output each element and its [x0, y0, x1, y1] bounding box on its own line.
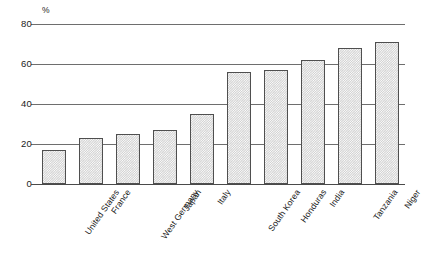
- bar: [42, 150, 66, 184]
- bar: [301, 60, 325, 184]
- y-axis-tick-label: 80: [6, 19, 32, 29]
- x-axis-labels: United StatesFranceWest GermanyJapanItal…: [36, 188, 405, 261]
- x-axis-category-label: Niger: [403, 188, 422, 210]
- y-axis-tick-label: 0: [6, 179, 32, 189]
- y-axis-tick-label: 20: [6, 139, 32, 149]
- x-axis-category-label: Tanzania: [372, 188, 400, 222]
- y-axis-tick-label: 40: [6, 99, 32, 109]
- bar: [190, 114, 214, 184]
- x-axis-category-label: South Korea: [267, 188, 302, 233]
- bar: [338, 48, 362, 184]
- bar-series: [36, 24, 405, 184]
- bar: [375, 42, 399, 184]
- y-axis-unit-label: %: [42, 6, 50, 15]
- x-axis-category-label: Italy: [216, 188, 233, 206]
- x-axis-line: [31, 184, 405, 185]
- x-axis-category-label: Honduras: [299, 188, 328, 224]
- y-axis-tick-label: 60: [6, 59, 32, 69]
- bar: [227, 72, 251, 184]
- bar: [116, 134, 140, 184]
- x-axis-category-label: Japan: [182, 188, 203, 213]
- x-axis-category-label: India: [328, 188, 346, 209]
- bar: [153, 130, 177, 184]
- bar: [264, 70, 288, 184]
- bar: [79, 138, 103, 184]
